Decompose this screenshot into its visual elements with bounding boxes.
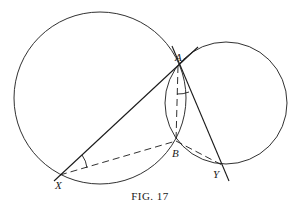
label-A: A — [174, 51, 182, 63]
label-B: B — [172, 147, 179, 159]
label-X: X — [54, 179, 63, 191]
angle-mark-X — [82, 155, 87, 168]
dashed-line-AB — [176, 66, 178, 141]
dashed-line-BY — [176, 141, 222, 165]
large-circle — [14, 12, 186, 184]
geometry-figure: A B X Y FIG. 17 — [0, 0, 301, 210]
figure-caption: FIG. 17 — [131, 190, 169, 202]
dashed-line-XB — [60, 141, 176, 175]
line-AY — [172, 46, 229, 181]
angle-mark-A — [177, 92, 189, 94]
label-Y: Y — [213, 168, 221, 180]
